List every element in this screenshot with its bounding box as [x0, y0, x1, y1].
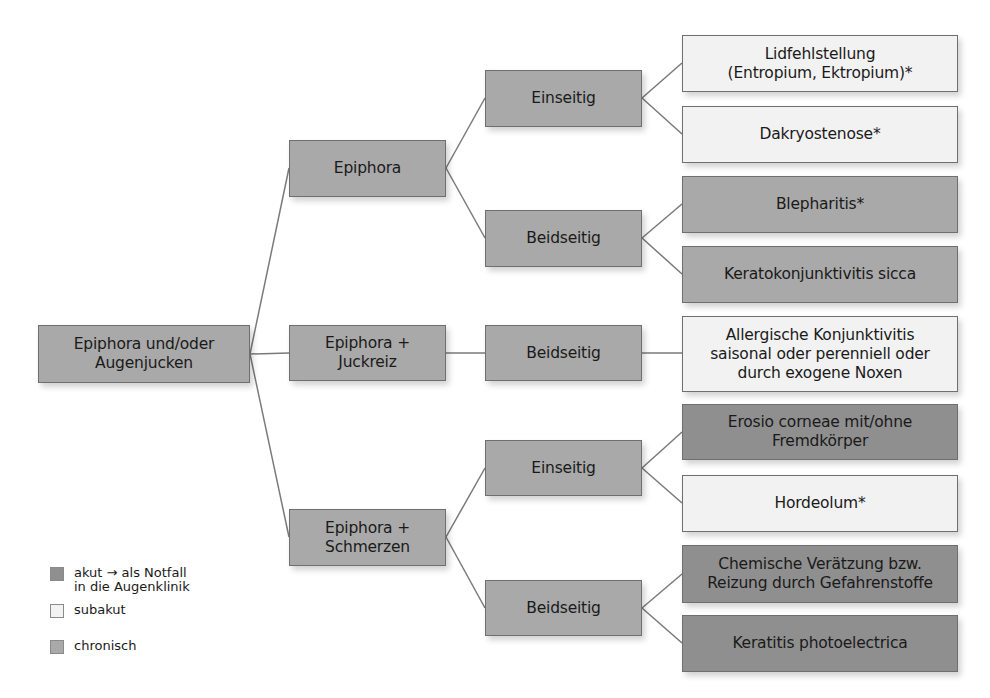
legend-item-akut: akut → als Notfall in die Augenklinik [50, 566, 260, 594]
decision-tree-diagram: Epiphora und/oder Augenjucken Epiphora E… [0, 0, 990, 698]
legend-item-subakut: subakut [50, 603, 260, 618]
diagnosis-node-lidfehlstellung: Lidfehlstellung (Entropium, Ektropium)* [682, 35, 958, 92]
legend-label: akut → als Notfall in die Augenklinik [74, 566, 190, 594]
chronic-swatch-icon [50, 640, 64, 654]
symptom-node-epiphora-schmerzen: Epiphora + Schmerzen [289, 509, 446, 566]
diagnosis-node-dakryostenose: Dakryostenose* [682, 106, 958, 163]
diagnosis-node-allergische-konjunktivitis: Allergische Konjunktivitis saisonal oder… [682, 316, 958, 392]
laterality-node-beidseitig: Beidseitig [485, 210, 642, 267]
diagnosis-node-erosio-corneae: Erosio corneae mit/ohne Fremdkörper [682, 404, 958, 460]
diagnosis-node-keratitis-photoelectrica: Keratitis photoelectrica [682, 615, 958, 672]
legend-item-chronisch: chronisch [50, 639, 260, 654]
diagnosis-node-chemische-veraetzung: Chemische Verätzung bzw. Reizung durch G… [682, 545, 958, 603]
laterality-node-beidseitig: Beidseitig [485, 580, 642, 636]
legend-label: subakut [74, 603, 126, 617]
root-node: Epiphora und/oder Augenjucken [38, 325, 250, 383]
laterality-node-einseitig: Einseitig [485, 70, 642, 127]
laterality-node-beidseitig: Beidseitig [485, 325, 642, 381]
laterality-node-einseitig: Einseitig [485, 440, 642, 496]
acute-swatch-icon [50, 567, 64, 581]
symptom-node-epiphora-juckreiz: Epiphora + Juckreiz [289, 325, 446, 381]
legend-label: chronisch [74, 639, 136, 653]
subacute-swatch-icon [50, 604, 64, 618]
diagnosis-node-hordeolum: Hordeolum* [682, 475, 958, 532]
symptom-node-epiphora: Epiphora [289, 140, 446, 197]
diagnosis-node-keratokonjunktivitis-sicca: Keratokonjunktivitis sicca [682, 246, 958, 303]
diagnosis-node-blepharitis: Blepharitis* [682, 176, 958, 233]
